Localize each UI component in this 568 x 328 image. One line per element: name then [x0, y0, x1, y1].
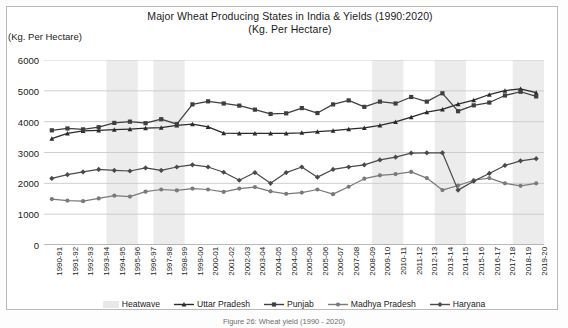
- data-point-marker: [284, 111, 288, 115]
- chart-title-line1: Major Wheat Producing States in India & …: [147, 10, 432, 22]
- data-point-marker: [487, 176, 491, 180]
- data-point-marker: [143, 165, 148, 170]
- data-point-marker: [175, 122, 179, 126]
- data-point-marker: [50, 197, 54, 201]
- data-point-marker: [331, 192, 335, 196]
- legend-item-label: Madhya Pradesh: [351, 299, 416, 309]
- legend-item-haryana[interactable]: Haryana: [430, 299, 485, 309]
- x-axis-tick-label: 2000-01: [211, 247, 220, 276]
- x-axis-tick-label: 2014-15: [461, 247, 470, 276]
- x-axis-tick-label: 2006-07: [336, 247, 345, 276]
- data-point-marker: [424, 150, 429, 155]
- x-axis-tick-label: 1992-93: [86, 247, 95, 276]
- data-point-marker: [503, 93, 507, 97]
- y-axis-unit-label: (Kg. Per Hectare): [8, 31, 82, 42]
- data-point-marker: [253, 185, 257, 189]
- chart-legend: HeatwaveUttar PradeshPunjabMadhya Prades…: [44, 297, 544, 311]
- data-point-marker: [128, 194, 132, 198]
- y-axis-tick-label: 2000: [18, 178, 39, 189]
- data-point-marker: [190, 186, 194, 190]
- data-point-marker: [518, 90, 522, 94]
- y-axis-tick-label: 1000: [18, 209, 39, 220]
- data-point-marker: [502, 163, 507, 168]
- y-axis-tick-label: 3000: [18, 147, 39, 158]
- data-point-marker: [440, 91, 444, 95]
- data-point-marker: [347, 98, 351, 102]
- data-point-marker: [393, 101, 397, 105]
- heatwave-swatch-icon: [103, 301, 119, 308]
- legend-item-uttar-pradesh[interactable]: Uttar Pradesh: [174, 299, 250, 309]
- data-point-marker: [49, 176, 54, 181]
- data-point-marker: [346, 164, 351, 169]
- data-point-marker: [300, 106, 304, 110]
- legend-line-marker-icon: [328, 300, 348, 309]
- data-point-marker: [272, 302, 276, 306]
- data-point-marker: [81, 127, 85, 131]
- x-axis-tick-label: 1991-92: [71, 247, 80, 276]
- data-point-marker: [362, 177, 366, 181]
- data-point-marker: [175, 188, 179, 192]
- data-point-marker: [409, 95, 413, 99]
- data-point-marker: [425, 100, 429, 104]
- data-point-marker: [409, 170, 413, 174]
- legend-item-label: Punjab: [287, 299, 314, 309]
- data-point-marker: [503, 181, 507, 185]
- x-axis-tick-label: 1996-97: [149, 247, 158, 276]
- x-axis-tick-label: 1998-99: [180, 247, 189, 276]
- data-point-marker: [222, 101, 226, 105]
- data-point-marker: [221, 170, 226, 175]
- data-point-marker: [315, 111, 319, 115]
- legend-line-marker-icon: [264, 300, 284, 309]
- data-point-marker: [190, 102, 194, 106]
- data-point-marker: [518, 184, 522, 188]
- data-point-marker: [472, 103, 476, 107]
- data-point-marker: [237, 186, 241, 190]
- y-axis-tick-label: 6000: [18, 55, 39, 66]
- data-point-marker: [393, 172, 397, 176]
- data-point-marker: [336, 302, 340, 306]
- data-point-marker: [206, 99, 210, 103]
- x-axis-tick-label: 2017-18: [508, 247, 517, 276]
- data-point-marker: [330, 167, 335, 172]
- data-point-marker: [50, 128, 54, 132]
- data-point-marker: [378, 100, 382, 104]
- x-axis-tick-label: 2007-08: [352, 247, 361, 276]
- chart-title-line2: (Kg. Per Hectare): [90, 23, 490, 36]
- data-point-marker: [362, 162, 367, 167]
- x-axis-tick-label: 1997-98: [165, 247, 174, 276]
- data-point-marker: [237, 178, 242, 183]
- x-axis-tick-label: 2005-06: [321, 247, 330, 276]
- data-point-marker: [534, 181, 538, 185]
- data-point-marker: [534, 94, 538, 98]
- data-point-marker: [80, 169, 85, 174]
- x-axis-tick-label: 2001-02: [227, 247, 236, 276]
- data-point-marker: [205, 164, 210, 169]
- data-point-marker: [268, 112, 272, 116]
- data-point-marker: [437, 301, 442, 306]
- data-point-marker: [237, 104, 241, 108]
- data-point-marker: [143, 190, 147, 194]
- data-point-marker: [440, 188, 444, 192]
- data-point-marker: [159, 187, 163, 191]
- x-axis-tick-label: 2013-14: [446, 247, 455, 276]
- data-point-marker: [456, 109, 460, 113]
- legend-item-label: Uttar Pradesh: [197, 299, 250, 309]
- legend-item-madhya-pradesh[interactable]: Madhya Pradesh: [328, 299, 416, 309]
- x-axis-tick-label: 2015-16: [477, 247, 486, 276]
- legend-item-punjab[interactable]: Punjab: [264, 299, 314, 309]
- chart-title: Major Wheat Producing States in India & …: [90, 10, 490, 36]
- legend-item-heatwave[interactable]: Heatwave: [103, 299, 160, 309]
- data-point-marker: [268, 189, 272, 193]
- x-axis-tick-label: 2009-10: [383, 247, 392, 276]
- data-point-marker: [409, 151, 414, 156]
- x-axis-tick-label: 2019-20: [540, 247, 549, 276]
- x-axis-tick-label: 2011-12: [415, 247, 424, 275]
- data-point-marker: [425, 176, 429, 180]
- data-point-marker: [284, 192, 288, 196]
- x-axis-tick-label: 1990-91: [55, 247, 64, 276]
- x-axis-tick-label: 1995-96: [133, 247, 142, 276]
- figure-caption: Figure 26: Wheat yield (1990 - 2020): [0, 317, 568, 328]
- x-axis-tick-label: 1994-95: [118, 247, 127, 276]
- y-axis-tick-label: 0: [34, 240, 39, 251]
- data-point-marker: [65, 172, 70, 177]
